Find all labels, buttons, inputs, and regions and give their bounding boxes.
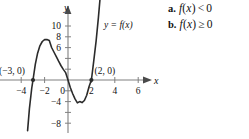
y-tick-label-10: 10 xyxy=(52,21,62,31)
choice-b-close-paren: ) xyxy=(192,18,196,30)
y-tick-label-8: 8 xyxy=(56,32,61,42)
point-label-minus3-0: (−3, 0) xyxy=(0,66,25,77)
cubic-function-graph: y x −4 −2 0 2 4 6 10 8 6 −4 −8 (−3, 0) (… xyxy=(0,0,160,139)
answer-choices-list: a. f(x)<0 b. f(x)≥0 xyxy=(168,2,249,34)
point-label-2-0: (2, 0) xyxy=(95,66,116,77)
figure-container: y x −4 −2 0 2 4 6 10 8 6 −4 −8 (−3, 0) (… xyxy=(0,0,249,139)
choice-item-b[interactable]: b. f(x)≥0 xyxy=(168,18,249,34)
choice-marker-b: b. xyxy=(168,19,176,30)
graph-panel: y x −4 −2 0 2 4 6 10 8 6 −4 −8 (−3, 0) (… xyxy=(0,0,160,139)
function-curve xyxy=(28,0,101,131)
x-tick-label-0: 0 xyxy=(60,86,65,96)
x-tick-label--2: −2 xyxy=(40,86,50,96)
x-tick-label-2: 2 xyxy=(89,86,94,96)
x-axis-arrow xyxy=(143,77,152,84)
x-tick-label-6: 6 xyxy=(136,86,141,96)
y-axis-label: y xyxy=(63,2,69,13)
x-tick-label--4: −4 xyxy=(16,86,26,96)
marked-point-minus3-0 xyxy=(31,78,35,82)
marked-point-2-0 xyxy=(89,78,93,82)
choice-b-value: 0 xyxy=(207,18,213,30)
choice-expression-a: f(x)<0 xyxy=(179,2,212,14)
y-tick-label--4: −4 xyxy=(51,97,61,107)
choice-a-close-paren: ) xyxy=(192,2,196,14)
choice-item-a[interactable]: a. f(x)<0 xyxy=(168,2,249,18)
choice-b-relation: ≥ xyxy=(198,18,205,30)
choice-expression-b: f(x)≥0 xyxy=(179,18,212,30)
x-axis-label: x xyxy=(153,75,159,86)
x-tick-label-4: 4 xyxy=(112,86,117,96)
choice-a-value: 0 xyxy=(206,2,212,14)
y-tick-label--8: −8 xyxy=(51,119,61,129)
choice-marker-a: a. xyxy=(168,3,176,14)
y-tick-label-6: 6 xyxy=(56,43,61,53)
curve-equation-label: y = f(x) xyxy=(103,20,133,31)
choice-a-relation: < xyxy=(198,2,205,14)
